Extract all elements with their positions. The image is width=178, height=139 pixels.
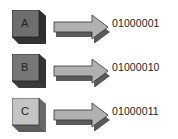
- cube-letter: B: [21, 61, 28, 73]
- cube-b: B: [12, 54, 48, 90]
- cube-letter: A: [21, 17, 28, 29]
- row-b: B 01000010: [0, 54, 178, 94]
- binary-code: 01000010: [112, 61, 160, 73]
- cube-icon: [12, 54, 48, 90]
- cube-c: C: [12, 98, 48, 134]
- row-c: C 01000011: [0, 98, 178, 138]
- binary-code: 01000001: [112, 17, 160, 29]
- binary-code: 01000011: [112, 105, 159, 117]
- cube-icon: [12, 10, 48, 46]
- row-a: A 01000001: [0, 10, 178, 50]
- arrow-right-icon: [52, 59, 110, 87]
- arrow-right-icon: [52, 15, 110, 43]
- cube-icon: [12, 98, 48, 134]
- cube-a: A: [12, 10, 48, 46]
- arrow-right-icon: [52, 103, 110, 131]
- cube-letter: C: [21, 105, 29, 117]
